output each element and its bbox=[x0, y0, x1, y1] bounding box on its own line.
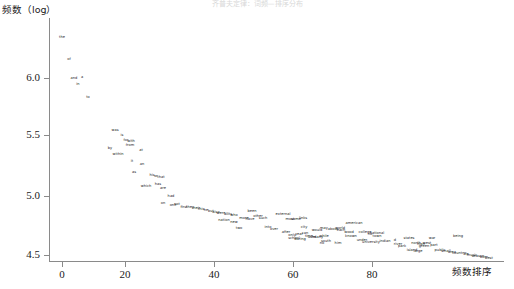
word-point: known bbox=[345, 234, 357, 238]
x-axis-label: 频数排序 bbox=[452, 266, 492, 278]
word-point: which bbox=[141, 184, 151, 188]
word-point: war bbox=[429, 236, 436, 240]
word-point: part bbox=[430, 243, 437, 247]
word-point: who bbox=[230, 213, 237, 217]
y-tick-mark bbox=[44, 78, 49, 79]
x-tick-label: 80 bbox=[367, 269, 378, 280]
word-point: was bbox=[111, 128, 118, 132]
x-tick-mark bbox=[214, 262, 215, 267]
word-point: and bbox=[71, 76, 78, 80]
x-tick-mark bbox=[62, 262, 63, 267]
word-point: in bbox=[76, 82, 79, 86]
word-point: university bbox=[362, 240, 380, 244]
word-point: large bbox=[413, 249, 422, 253]
word-point: been bbox=[248, 209, 257, 213]
y-axis-label: 频数（log） bbox=[2, 4, 56, 16]
word-point: a bbox=[81, 75, 83, 79]
word-point: over bbox=[270, 227, 278, 231]
word-point: best bbox=[485, 256, 493, 260]
word-point: that bbox=[157, 175, 164, 179]
x-tick-label: 40 bbox=[209, 269, 220, 280]
word-point: is bbox=[121, 133, 124, 137]
word-point: him bbox=[335, 241, 342, 245]
word-point: within bbox=[113, 152, 124, 156]
word-point: park bbox=[398, 244, 406, 248]
word-point: from bbox=[126, 143, 134, 147]
word-point: an bbox=[140, 162, 144, 166]
word-point: on bbox=[161, 201, 165, 205]
word-point: green bbox=[419, 244, 429, 248]
word-point: such bbox=[259, 216, 267, 220]
word-point: had bbox=[168, 194, 175, 198]
word-point: states bbox=[404, 236, 415, 240]
x-tick-label: 60 bbox=[288, 269, 299, 280]
word-point: external bbox=[276, 212, 291, 216]
y-tick-mark bbox=[44, 196, 49, 197]
word-point: of bbox=[67, 57, 70, 61]
word-point: being bbox=[453, 234, 463, 238]
word-point: two bbox=[236, 226, 243, 230]
word-point: city bbox=[301, 225, 308, 229]
y-tick-mark bbox=[44, 255, 49, 256]
word-point: the bbox=[59, 35, 65, 39]
chart-title-clipped: 齐普夫定律：词频—排序分布 bbox=[0, 0, 514, 8]
word-point: are bbox=[160, 186, 166, 190]
y-axis-line bbox=[49, 18, 50, 262]
x-tick-mark bbox=[372, 262, 373, 267]
x-tick-label: 0 bbox=[59, 269, 65, 280]
word-point: national bbox=[370, 231, 385, 235]
y-tick-label: 4.5 bbox=[0, 249, 40, 260]
chart-root: 齐普夫定律：词频—排序分布 频数（log） 频数排序 6.05.55.04.5 … bbox=[0, 0, 514, 289]
word-point: not bbox=[174, 202, 180, 206]
word-point: links bbox=[299, 216, 307, 220]
word-point: would bbox=[312, 228, 323, 232]
word-point: at bbox=[139, 148, 143, 152]
x-tick-mark bbox=[125, 262, 126, 267]
word-point: as bbox=[132, 170, 136, 174]
word-point: indian bbox=[379, 239, 390, 243]
word-point: nation bbox=[218, 218, 229, 222]
word-point: to bbox=[86, 95, 90, 99]
y-tick-label: 5.0 bbox=[0, 190, 40, 201]
word-point: american bbox=[346, 221, 363, 225]
word-point: by bbox=[108, 146, 112, 150]
word-point: time bbox=[305, 234, 313, 238]
y-tick-mark bbox=[44, 135, 49, 136]
x-tick-label: 20 bbox=[120, 269, 131, 280]
word-point: no bbox=[320, 241, 324, 245]
x-axis-line bbox=[49, 261, 504, 262]
y-tick-label: 6.0 bbox=[0, 72, 40, 83]
y-tick-label: 5.5 bbox=[0, 129, 40, 140]
x-tick-mark bbox=[293, 262, 294, 267]
word-point: it bbox=[131, 159, 133, 163]
word-point: new bbox=[230, 220, 237, 224]
plot-area bbox=[49, 18, 504, 262]
